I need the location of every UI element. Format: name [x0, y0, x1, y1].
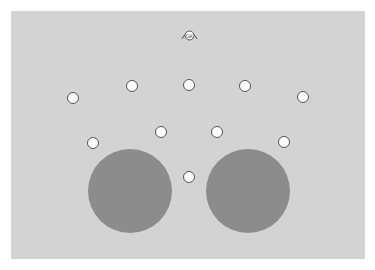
spot-5[interactable]	[297, 91, 309, 103]
svg-text:GK: GK	[186, 33, 194, 39]
pad-left[interactable]	[88, 149, 172, 233]
spot-7[interactable]	[155, 126, 167, 138]
spot-6[interactable]	[87, 137, 99, 149]
goalkeeper-icon: GK	[181, 29, 198, 42]
spot-1[interactable]	[67, 92, 79, 104]
spot-3[interactable]	[183, 79, 195, 91]
spot-8[interactable]	[211, 126, 223, 138]
spot-10[interactable]	[183, 171, 195, 183]
spot-9[interactable]	[278, 136, 290, 148]
pad-right[interactable]	[206, 149, 290, 233]
spot-2[interactable]	[126, 80, 138, 92]
game-board	[11, 11, 365, 259]
spot-4[interactable]	[239, 80, 251, 92]
